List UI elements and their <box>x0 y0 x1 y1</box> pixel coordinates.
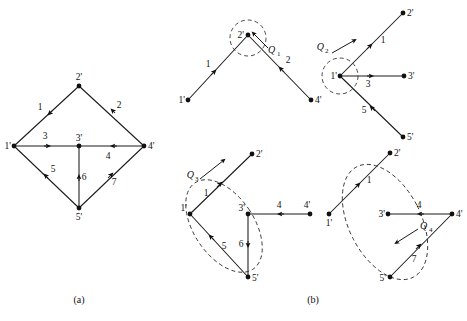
q2-edge-label-5: 5 <box>362 105 367 115</box>
q1-edge-1 <box>188 35 248 100</box>
q3-node-dot-3[interactable] <box>246 212 251 217</box>
q4-node-label-5: 5' <box>380 273 387 283</box>
q2-node-dot-3[interactable] <box>402 74 407 79</box>
q4-pointer-arrow <box>396 229 418 243</box>
q4-node-label-4: 4' <box>456 209 463 219</box>
q1-edge-label-2: 2 <box>286 55 291 65</box>
q4-node-label-3: 3' <box>379 209 386 219</box>
q4-edge-label-4: 4 <box>417 200 422 210</box>
q4-edge-1 <box>329 153 390 214</box>
q1-marker-subscript: 1 <box>277 50 281 58</box>
q1-node-dot-1[interactable] <box>186 98 191 103</box>
q1-arrowhead-1 <box>211 71 215 75</box>
node-label-4: 4' <box>148 141 155 151</box>
q3-node-label-4: 4' <box>304 200 311 210</box>
q1-node-dot-2[interactable] <box>246 33 251 38</box>
edge-label-5: 5 <box>51 164 56 174</box>
node-dot-2[interactable] <box>77 84 82 89</box>
q2-arrowhead-1 <box>367 45 371 49</box>
graph-figure-svg: 1' 2' 3' 4' 5' 1 2 3 4 5 6 7 (a) Q 1 <box>0 0 467 321</box>
edge-label-7: 7 <box>112 177 117 187</box>
caption-a: (a) <box>73 294 84 306</box>
q3-node-dot-2[interactable] <box>250 152 255 157</box>
edge-label-4: 4 <box>106 151 111 161</box>
subpanel-q1: Q 1 1' 2' 4' 1 2 <box>179 20 322 105</box>
q3-node-label-5: 5' <box>252 273 259 283</box>
q1-node-label-2: 2' <box>238 30 245 40</box>
node-dot-1[interactable] <box>12 144 17 149</box>
q2-marker-label: Q <box>317 41 325 52</box>
subpanel-q4: Q 4 1' 2' 3' 4' 5' 1 4 7 <box>325 148 463 294</box>
q4-edge-label-1: 1 <box>367 175 372 185</box>
q1-node-label-1: 1' <box>179 95 186 105</box>
q2-node-label-5: 5' <box>407 132 414 142</box>
q2-edge-label-1: 1 <box>381 35 386 45</box>
q3-edge-label-1: 1 <box>204 188 209 198</box>
q4-node-dot-1[interactable] <box>327 212 332 217</box>
q1-node-label-4: 4' <box>315 95 322 105</box>
edge-2 <box>79 86 144 146</box>
q3-node-dot-1[interactable] <box>188 212 193 217</box>
q4-arrowhead-1 <box>355 184 359 188</box>
q3-edge-label-6: 6 <box>239 239 244 249</box>
q3-arrowhead-5 <box>210 236 214 240</box>
q2-node-dot-5[interactable] <box>401 135 406 140</box>
arrowhead-1 <box>49 111 52 114</box>
q1-edge-2 <box>248 35 311 100</box>
q2-node-dot-2[interactable] <box>401 11 406 16</box>
q1-node-dot-4[interactable] <box>309 98 314 103</box>
q3-marker-subscript: 3 <box>195 175 199 183</box>
subpanel-q3: Q 3 1' 2' 3' 4' 5' 1 4 5 6 <box>170 149 312 286</box>
q3-edge-label-4: 4 <box>277 200 282 210</box>
node-label-1: 1' <box>5 141 12 151</box>
q4-node-dot-4[interactable] <box>450 212 455 217</box>
node-label-2: 2' <box>76 72 83 82</box>
node-label-3: 3' <box>76 133 83 143</box>
q4-node-dot-2[interactable] <box>388 151 393 156</box>
edge-label-2: 2 <box>117 100 122 110</box>
q4-node-label-2: 2' <box>394 148 401 158</box>
q3-node-dot-5[interactable] <box>246 275 251 280</box>
edge-label-3: 3 <box>43 131 48 141</box>
q3-node-label-3: 3' <box>239 203 246 213</box>
q3-edge-label-5: 5 <box>222 241 227 251</box>
q1-dashed-circle <box>230 20 266 56</box>
node-dot-4[interactable] <box>142 144 147 149</box>
q3-dashed-ellipse <box>170 166 278 286</box>
q2-edge-label-3: 3 <box>366 79 371 89</box>
q2-marker-subscript: 2 <box>325 47 329 55</box>
arrowhead-2 <box>112 110 115 113</box>
node-dot-5[interactable] <box>77 206 82 211</box>
q4-node-dot-3[interactable] <box>386 212 391 217</box>
q4-marker-label: Q <box>420 220 428 231</box>
q2-edge-1 <box>340 13 403 76</box>
figure-container: 1' 2' 3' 4' 5' 1 2 3 4 5 6 7 (a) Q 1 <box>0 0 467 321</box>
q3-node-dot-4[interactable] <box>308 212 313 217</box>
q3-marker-label: Q <box>187 169 195 180</box>
q3-pointer-arrow <box>200 160 224 179</box>
caption-b: (b) <box>307 294 319 306</box>
panel-a: 1' 2' 3' 4' 5' 1 2 3 4 5 6 7 (a) <box>5 72 155 306</box>
subpanel-q2: Q 2 1' 2' 3' 5' 1 3 5 <box>317 8 415 142</box>
q2-node-label-1: 1' <box>331 71 338 81</box>
q4-node-dot-5[interactable] <box>388 275 393 280</box>
q3-node-label-2: 2' <box>256 149 263 159</box>
q4-marker-subscript: 4 <box>429 226 433 234</box>
q2-edge-5 <box>340 76 403 137</box>
q4-node-label-1: 1' <box>326 218 333 228</box>
q2-node-label-2: 2' <box>407 8 414 18</box>
q1-arrowhead-2 <box>280 68 284 72</box>
node-dot-3[interactable] <box>77 144 82 149</box>
q2-node-label-3: 3' <box>408 71 415 81</box>
q3-node-label-1: 1' <box>181 203 188 213</box>
edge-label-6: 6 <box>82 172 87 182</box>
q2-node-dot-1[interactable] <box>338 74 343 79</box>
q2-pointer-arrow <box>332 40 355 53</box>
node-label-5: 5' <box>76 212 83 222</box>
edge-label-1: 1 <box>38 102 43 112</box>
q1-edge-label-1: 1 <box>206 59 211 69</box>
q1-marker-label: Q <box>268 44 276 55</box>
q4-edge-label-7: 7 <box>412 254 417 264</box>
